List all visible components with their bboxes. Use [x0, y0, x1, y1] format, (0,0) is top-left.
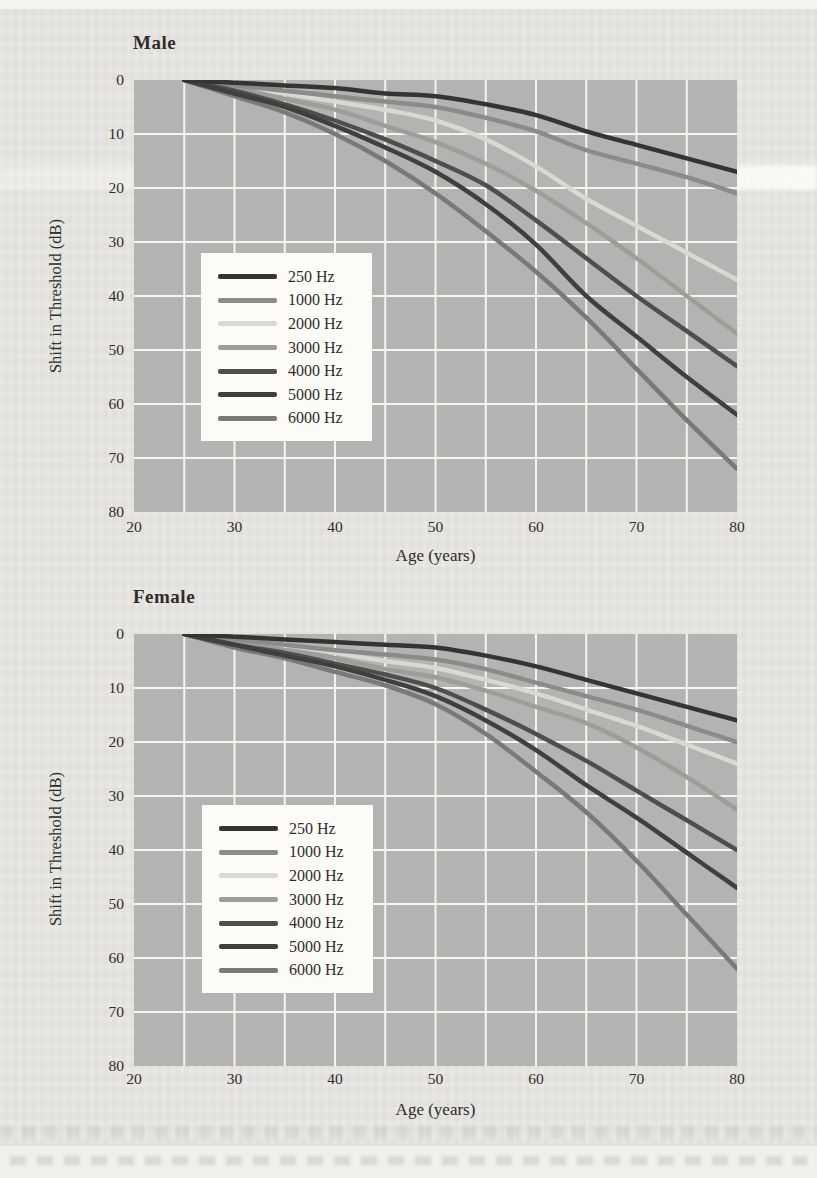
legend-swatch-250hz — [219, 826, 278, 831]
legend-label: 4000 Hz — [288, 362, 343, 380]
page-top-light-strip — [0, 0, 817, 9]
x-tick-label: 60 — [528, 1068, 544, 1090]
x-tick-label: 80 — [729, 1068, 745, 1090]
legend-item: 250 Hz — [201, 265, 372, 289]
legend-label: 4000 Hz — [289, 914, 344, 932]
y-tick-label: 70 — [78, 1002, 124, 1022]
female-legend: 250 Hz1000 Hz2000 Hz3000 Hz4000 Hz5000 H… — [202, 805, 373, 993]
legend-item: 4000 Hz — [201, 359, 372, 383]
legend-item: 6000 Hz — [202, 959, 373, 983]
legend-item: 3000 Hz — [201, 336, 372, 360]
legend-swatch-5000hz — [219, 944, 278, 949]
y-tick-label: 60 — [78, 948, 124, 968]
x-tick-label: 30 — [227, 1068, 243, 1090]
legend-item: 6000 Hz — [201, 407, 372, 431]
x-tick-label: 70 — [629, 1068, 645, 1090]
legend-swatch-4000hz — [219, 921, 278, 926]
legend-item: 5000 Hz — [202, 935, 373, 959]
female-y-tick-labels: 01020304050607080 — [78, 634, 124, 1066]
y-tick-label: 0 — [78, 70, 124, 90]
female-x-axis-label: Age (years) — [134, 1100, 737, 1120]
x-tick-label: 40 — [327, 516, 343, 538]
legend-item: 250 Hz — [202, 817, 373, 841]
legend-item: 1000 Hz — [201, 289, 372, 313]
y-tick-label: 70 — [78, 448, 124, 468]
legend-swatch-2000hz — [219, 873, 278, 878]
x-tick-label: 40 — [327, 1068, 343, 1090]
y-tick-label: 40 — [78, 840, 124, 860]
y-tick-label: 30 — [78, 786, 124, 806]
legend-swatch-2000hz — [218, 321, 277, 326]
y-tick-label: 10 — [78, 124, 124, 144]
y-tick-label: 80 — [78, 502, 124, 522]
male-x-axis-label: Age (years) — [134, 546, 737, 566]
x-tick-label: 20 — [126, 516, 142, 538]
legend-label: 3000 Hz — [288, 339, 343, 357]
page-bleed-through-band — [0, 1146, 817, 1178]
y-tick-label: 40 — [78, 286, 124, 306]
y-tick-label: 10 — [78, 678, 124, 698]
legend-item: 4000 Hz — [202, 911, 373, 935]
y-tick-label: 50 — [78, 894, 124, 914]
legend-swatch-6000hz — [219, 968, 278, 973]
male-y-tick-labels: 01020304050607080 — [78, 80, 124, 512]
legend-label: 1000 Hz — [289, 843, 344, 861]
x-tick-label: 30 — [227, 516, 243, 538]
legend-label: 6000 Hz — [288, 409, 343, 427]
legend-label: 2000 Hz — [289, 867, 344, 885]
y-tick-label: 20 — [78, 178, 124, 198]
legend-swatch-3000hz — [219, 897, 278, 902]
female-x-tick-labels: 20304050607080 — [134, 1068, 737, 1090]
male-y-axis-label: Shift in Threshold (dB) — [46, 80, 68, 512]
legend-swatch-5000hz — [218, 392, 277, 397]
x-tick-label: 70 — [629, 516, 645, 538]
female-y-axis-label: Shift in Threshold (dB) — [46, 633, 68, 1065]
legend-label: 6000 Hz — [289, 961, 344, 979]
y-tick-label: 50 — [78, 340, 124, 360]
page-bleed-through-row — [0, 1126, 817, 1138]
male-legend: 250 Hz1000 Hz2000 Hz3000 Hz4000 Hz5000 H… — [201, 253, 372, 441]
legend-item: 2000 Hz — [202, 864, 373, 888]
legend-label: 2000 Hz — [288, 315, 343, 333]
legend-swatch-3000hz — [218, 345, 277, 350]
x-tick-label: 60 — [528, 516, 544, 538]
y-tick-label: 0 — [78, 624, 124, 644]
male-chart-title: Male — [133, 32, 176, 54]
female-chart-title: Female — [133, 586, 195, 608]
legend-label: 1000 Hz — [288, 291, 343, 309]
legend-item: 2000 Hz — [201, 312, 372, 336]
legend-item: 5000 Hz — [201, 383, 372, 407]
legend-swatch-4000hz — [218, 369, 277, 374]
legend-label: 5000 Hz — [288, 386, 343, 404]
legend-label: 5000 Hz — [289, 938, 344, 956]
y-tick-label: 80 — [78, 1056, 124, 1076]
x-tick-label: 20 — [126, 1068, 142, 1090]
y-tick-label: 60 — [78, 394, 124, 414]
x-tick-label: 50 — [428, 1068, 444, 1090]
x-tick-label: 80 — [729, 516, 745, 538]
legend-swatch-6000hz — [218, 416, 277, 421]
scanned-page: Male Shift in Threshold (dB) 01020304050… — [0, 0, 817, 1178]
legend-swatch-1000hz — [218, 298, 277, 303]
legend-swatch-1000hz — [219, 850, 278, 855]
y-tick-label: 30 — [78, 232, 124, 252]
legend-label: 250 Hz — [288, 268, 335, 286]
legend-item: 3000 Hz — [202, 888, 373, 912]
male-x-tick-labels: 20304050607080 — [134, 516, 737, 538]
legend-swatch-250hz — [218, 274, 277, 279]
x-tick-label: 50 — [428, 516, 444, 538]
legend-label: 250 Hz — [289, 820, 336, 838]
legend-label: 3000 Hz — [289, 891, 344, 909]
y-tick-label: 20 — [78, 732, 124, 752]
legend-item: 1000 Hz — [202, 841, 373, 865]
